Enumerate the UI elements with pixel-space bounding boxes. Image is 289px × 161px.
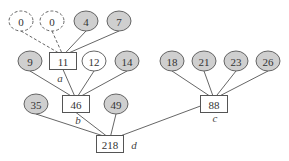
node-value: 35 [31,99,42,110]
node-value: 12 [89,56,100,67]
node-value: 14 [122,56,133,67]
node-value: 18 [167,56,178,67]
node-value: 26 [263,56,274,67]
edge-n4-a [66,31,86,53]
tree-diagram [0,0,289,161]
edge-z1-a [21,31,58,53]
node-value: 49 [111,99,122,110]
node-value: 218 [102,139,119,150]
node-value: 23 [231,56,242,67]
node-value: 21 [199,56,210,67]
edge-z2-a [52,31,62,53]
node-value: 0 [18,16,24,27]
edge-n23-c [217,71,236,96]
node-tag-d: d [131,140,137,151]
edge-n14-b [82,71,127,96]
node-value: 88 [209,99,220,110]
nodes-layer [9,11,280,153]
edge-n26-c [220,71,268,96]
edge-n18-c [172,71,209,96]
node-value: 11 [58,56,69,67]
node-tag-b: b [75,115,81,126]
node-value: 46 [71,99,82,110]
node-tag-a: a [57,73,63,84]
edge-c-d [122,106,201,136]
node-value: 7 [116,16,122,27]
node-value: 9 [27,56,33,67]
node-value: 4 [83,16,89,27]
edge-n21-c [204,71,213,96]
node-tag-c: c [213,113,218,124]
edge-n12-b [78,71,94,96]
edge-n9-b [30,71,70,96]
node-value: 0 [49,16,55,27]
edge-n49-d [111,114,116,136]
edge-n7-a [70,31,119,53]
